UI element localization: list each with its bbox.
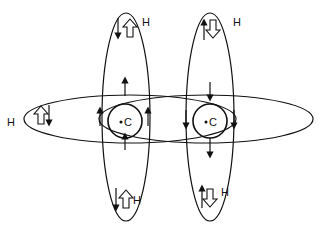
carbon-nucleus-right [205, 121, 208, 124]
hollow-arrow-down-icon [203, 189, 217, 207]
hollow-arrow-up-icon [123, 19, 137, 37]
carbon-nucleus-left [120, 121, 123, 124]
hollow-arrow-up-icon [34, 106, 48, 124]
hollow-arrow-up-icon [119, 190, 133, 208]
hydrogen-label-top-right: H [233, 16, 241, 28]
carbon-label-right: C [209, 116, 217, 128]
hydrogen-label-top-left: H [142, 16, 150, 28]
hydrogen-label-left: H [7, 116, 15, 128]
hydrogen-label-bottom-right: H [221, 186, 229, 198]
hollow-arrow-down-icon [206, 20, 220, 38]
carbon-label-left: C [124, 116, 132, 128]
hydrogen-label-bottom-left: H [133, 194, 141, 206]
orbital-diagram: C C H H H H H [0, 0, 322, 230]
